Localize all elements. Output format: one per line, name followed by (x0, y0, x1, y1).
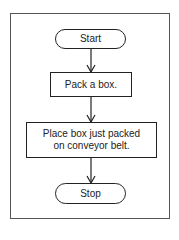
pack-box-process: Pack a box. (50, 72, 132, 97)
stop-label: Stop (80, 188, 101, 200)
arrow-pack-to-place (87, 96, 95, 122)
arrow-place-to-stop (87, 157, 95, 183)
place-on-belt-process: Place box just packed on conveyor belt. (26, 122, 157, 158)
stop-terminal: Stop (55, 183, 126, 204)
pack-box-label: Pack a box. (65, 79, 117, 91)
place-label-line1: Place box just packed (43, 128, 140, 140)
start-terminal: Start (55, 29, 126, 49)
place-label-line2: on conveyor belt. (53, 140, 129, 152)
start-label: Start (80, 33, 101, 45)
arrow-start-to-pack (87, 48, 95, 72)
